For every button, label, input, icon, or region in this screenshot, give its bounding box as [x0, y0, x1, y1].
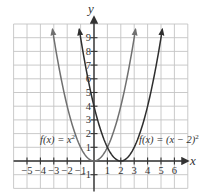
y-tick-label: 1 — [86, 142, 91, 153]
y-tick-label: 2 — [86, 128, 91, 139]
y-tick-label: 5 — [86, 87, 91, 98]
x-tick-label: 5 — [158, 165, 163, 176]
x-tick-label: −3 — [48, 165, 59, 176]
y-tick-label: 6 — [86, 73, 91, 84]
x-tick-label: 2 — [118, 165, 123, 176]
label-f-x-minus-2-squared: f(x) = (x − 2)2 — [139, 133, 199, 146]
grid-lines — [14, 24, 188, 188]
y-tick-label: 4 — [86, 101, 92, 112]
x-tick-label: 6 — [172, 165, 177, 176]
function-graph: −5−4−3−2−1123456−1123456789yxf(x) = x2f(… — [0, 0, 203, 196]
x-tick-label: −4 — [35, 165, 47, 176]
y-tick-label: 8 — [86, 46, 91, 57]
x-tick-label: 1 — [105, 165, 110, 176]
y-tick-label: −1 — [80, 169, 91, 180]
x-tick-label: 3 — [132, 165, 137, 176]
y-tick-label: 3 — [86, 114, 91, 125]
y-axis-label: y — [86, 1, 94, 16]
x-tick-label: 4 — [145, 165, 151, 176]
x-axis-label: x — [189, 153, 196, 168]
x-tick-label: −5 — [21, 165, 32, 176]
y-tick-label: 7 — [86, 60, 91, 71]
label-f-x-squared: f(x) = x2 — [40, 133, 76, 146]
y-tick-label: 9 — [86, 32, 91, 43]
x-tick-label: −2 — [62, 165, 73, 176]
